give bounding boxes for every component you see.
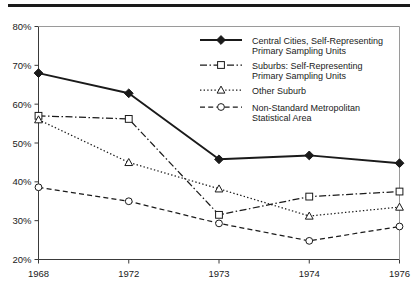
data-point-marker bbox=[35, 184, 42, 191]
data-point-marker bbox=[218, 104, 225, 111]
y-tick-label: 70% bbox=[12, 60, 32, 71]
data-point-marker bbox=[217, 36, 226, 45]
chart-series bbox=[35, 116, 404, 219]
data-point-marker bbox=[396, 223, 403, 230]
y-tick-label: 20% bbox=[12, 254, 32, 265]
data-point-marker bbox=[306, 237, 313, 244]
chart-series bbox=[35, 112, 403, 218]
series-line bbox=[39, 116, 400, 215]
y-axis-tick-labels: 20%30%40%50%60%70%80% bbox=[12, 21, 38, 265]
legend-label: Central Cities, Self-Representing bbox=[252, 36, 383, 46]
y-tick-label: 80% bbox=[12, 21, 32, 32]
data-point-marker bbox=[125, 159, 133, 166]
chart-legend: Central Cities, Self-RepresentingPrimary… bbox=[200, 36, 383, 124]
data-point-marker bbox=[34, 69, 43, 78]
x-tick-label: 1976 bbox=[389, 268, 410, 279]
data-point-marker bbox=[396, 188, 403, 195]
series-line bbox=[39, 120, 400, 216]
legend-label: Non-Standard Metropolitan bbox=[252, 103, 360, 113]
x-tick-label: 1968 bbox=[28, 268, 49, 279]
legend-entry: Non-Standard MetropolitanStatistical Are… bbox=[200, 103, 360, 124]
legend-label: Other Suburb bbox=[252, 86, 306, 96]
y-tick-label: 50% bbox=[12, 138, 32, 149]
data-point-marker bbox=[125, 198, 132, 205]
legend-entry: Other Suburb bbox=[200, 86, 306, 96]
data-point-marker bbox=[216, 220, 223, 227]
data-point-marker bbox=[216, 211, 223, 218]
data-point-marker bbox=[306, 193, 313, 200]
legend-label-continued: Primary Sampling Units bbox=[252, 46, 347, 56]
legend-label-continued: Primary Sampling Units bbox=[252, 71, 347, 81]
data-point-marker bbox=[218, 62, 225, 69]
chart-series-layer bbox=[34, 69, 404, 245]
data-point-marker bbox=[305, 151, 314, 160]
data-point-marker bbox=[395, 159, 404, 168]
data-point-marker bbox=[396, 203, 404, 210]
legend-entry: Central Cities, Self-RepresentingPrimary… bbox=[200, 36, 383, 57]
legend-entry: Suburbs: Self-RepresentingPrimary Sampli… bbox=[200, 61, 363, 82]
x-axis-tick-labels: 19681972197319741976 bbox=[28, 260, 410, 279]
y-tick-label: 60% bbox=[12, 99, 32, 110]
y-tick-label: 30% bbox=[12, 215, 32, 226]
chart-figure: 20%30%40%50%60%70%80% 196819721973197419… bbox=[0, 0, 418, 292]
x-tick-label: 1972 bbox=[118, 268, 139, 279]
legend-label: Suburbs: Self-Representing bbox=[252, 61, 363, 71]
top-rule-divider bbox=[8, 4, 410, 7]
data-point-marker bbox=[125, 116, 132, 123]
legend-label-continued: Statistical Area bbox=[252, 113, 312, 123]
line-chart: 20%30%40%50%60%70%80% 196819721973197419… bbox=[0, 0, 418, 292]
x-tick-label: 1974 bbox=[299, 268, 320, 279]
y-tick-label: 40% bbox=[12, 176, 32, 187]
x-tick-label: 1973 bbox=[208, 268, 229, 279]
